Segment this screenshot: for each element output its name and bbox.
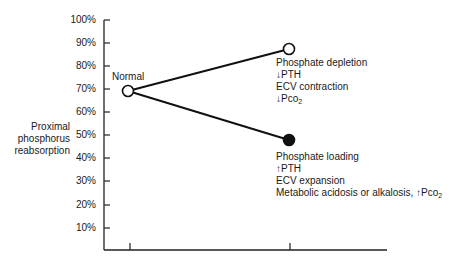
y-axis-label: Proximal phosphorus reabsorption	[4, 121, 70, 157]
normal-label: Normal	[112, 71, 144, 83]
ytick-label: 30%	[56, 175, 96, 187]
loading-acidosis: Metabolic acidosis or alkalosis, ↑Pco2	[276, 187, 442, 199]
ytick-label: 60%	[56, 106, 96, 118]
ytick-label: 100%	[56, 14, 96, 26]
depletion-annotation: Phosphate depletion ↓PTH ECV contraction…	[276, 57, 367, 105]
x-ticks	[130, 243, 290, 250]
loading-point-marker	[284, 135, 295, 146]
loading-ecv: ECV expansion	[276, 175, 442, 187]
ytick-label: 70%	[56, 83, 96, 95]
ytick-label: 80%	[56, 60, 96, 72]
depletion-point-marker	[284, 44, 295, 55]
depletion-title: Phosphate depletion	[276, 57, 367, 69]
depletion-ecv: ECV contraction	[276, 81, 367, 93]
y-axis-label-line: reabsorption	[4, 145, 70, 157]
y-ticks	[104, 20, 110, 228]
ytick-label: 20%	[56, 199, 96, 211]
ytick-label: 10%	[56, 222, 96, 234]
depletion-pco2: ↓Pco2	[276, 93, 367, 105]
loading-line	[128, 91, 289, 140]
depletion-line	[128, 49, 289, 91]
loading-annotation: Phosphate loading ↑PTH ECV expansion Met…	[276, 151, 442, 199]
ytick-label: 90%	[56, 37, 96, 49]
loading-pth: ↑PTH	[276, 163, 442, 175]
depletion-pth: ↓PTH	[276, 69, 367, 81]
y-axis-label-line: phosphorus	[4, 133, 70, 145]
y-axis-label-line: Proximal	[4, 121, 70, 133]
normal-point-marker	[123, 86, 134, 97]
loading-title: Phosphate loading	[276, 151, 442, 163]
